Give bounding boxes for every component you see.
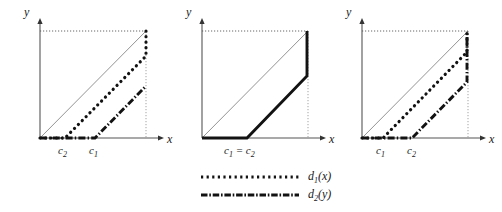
y-axis-label: y xyxy=(346,6,351,18)
figure-canvas: y x c2 c1 y x c1 = c2 xyxy=(0,0,502,212)
tick-label-c2: c2 xyxy=(407,145,416,159)
reference-diagonal xyxy=(362,31,468,138)
legend-entry-d2: d2(y) xyxy=(200,190,430,206)
chart-panel-right: y x c1 c2 xyxy=(322,0,492,180)
legend-swatch-dashdot xyxy=(200,190,300,200)
tick-label-c1: c1 xyxy=(376,145,385,159)
reference-diagonal xyxy=(40,31,146,138)
tick-label-c1: c1 xyxy=(89,145,98,159)
chart-panel-left: y x c2 c1 xyxy=(0,0,170,180)
legend-label-d2: d2(y) xyxy=(308,188,331,203)
y-axis-arrowhead xyxy=(37,18,42,24)
x-axis-label: x xyxy=(489,133,494,145)
legend-entry-d1: d1(x) xyxy=(200,172,430,188)
panel-left-plot xyxy=(0,0,170,180)
y-axis-label: y xyxy=(186,6,191,18)
y-axis-arrowhead xyxy=(359,18,364,24)
y-axis-label: y xyxy=(24,6,29,18)
series-d2-dashdot xyxy=(40,86,146,138)
tick-label-c1-equals-c2: c1 = c2 xyxy=(224,145,255,159)
chart-panel-middle: y x c1 = c2 xyxy=(162,0,332,180)
y-axis-arrowhead xyxy=(199,18,204,24)
tick-label-c2: c2 xyxy=(58,145,67,159)
legend-swatch-dotted xyxy=(200,172,300,182)
legend-label-d1: d1(x) xyxy=(308,170,331,185)
x-axis-arrowhead xyxy=(480,135,486,140)
reference-diagonal xyxy=(202,31,308,138)
legend: d1(x) d2(y) xyxy=(0,168,502,212)
